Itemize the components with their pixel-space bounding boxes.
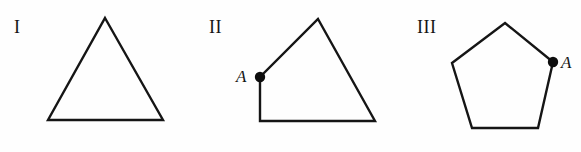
figure-iii-point-a-label: A xyxy=(560,53,572,72)
figure-iii-roman-label: III xyxy=(417,17,436,37)
figure-iii-point-a-dot xyxy=(548,57,558,67)
figure-iii-group: III A xyxy=(417,17,572,128)
figure-ii-group: II A xyxy=(209,17,375,121)
figure-ii-roman-label: II xyxy=(209,17,222,37)
figure-ii-point-a-label: A xyxy=(235,67,247,86)
figure-ii-point-a-dot xyxy=(255,72,265,82)
geometry-figure-canvas: I II A III A xyxy=(0,0,581,152)
geometry-figure-panel: I II A III A xyxy=(0,0,581,152)
figure-iii-pentagon xyxy=(452,23,553,128)
figure-i-triangle xyxy=(48,18,163,120)
figure-ii-quadrilateral xyxy=(260,19,375,121)
figure-i-roman-label: I xyxy=(14,17,21,37)
figure-i-group: I xyxy=(14,17,163,120)
